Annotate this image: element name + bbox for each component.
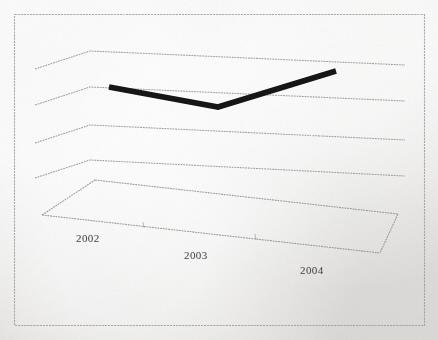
floor-back-edge (95, 180, 398, 214)
floor-back-left-edge (42, 180, 95, 215)
gridline-2 (35, 160, 405, 178)
axis-label-2003: 2003 (184, 249, 208, 261)
floor-right-edge (380, 214, 398, 253)
gridline-3 (35, 125, 405, 143)
tick-2002 (143, 222, 144, 228)
gridline-5 (35, 51, 405, 69)
scanned-chart-page: 2002 2003 2004 (0, 0, 438, 340)
chart-canvas (0, 0, 438, 340)
gridline-4 (35, 87, 405, 105)
figure-border (15, 15, 425, 326)
gridlines (35, 51, 405, 178)
axis-label-2002: 2002 (76, 232, 100, 244)
axis-label-2004: 2004 (300, 264, 324, 276)
